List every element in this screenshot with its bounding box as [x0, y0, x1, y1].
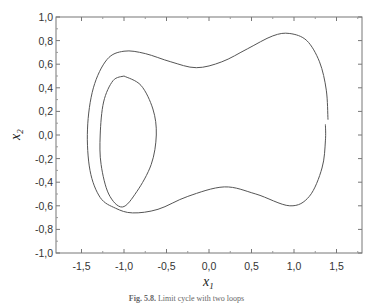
y-tick-label: 0,4 — [38, 82, 53, 94]
plot-frame — [56, 17, 362, 253]
x-tick-label: 1,5 — [329, 260, 344, 272]
y-tick-label: -0,8 — [35, 223, 53, 235]
y-axis-label: x2 — [8, 129, 25, 141]
x-tick-label: 0,5 — [244, 260, 259, 272]
x-tick-label: -1,0 — [115, 260, 133, 272]
y-tick-label: 1,0 — [38, 11, 53, 23]
x-tick-label: 1,0 — [287, 260, 302, 272]
y-tick-label: -0,2 — [35, 153, 53, 165]
caption-text: Limit cycle with two loops — [158, 294, 244, 303]
x-axis-ticks: -1,5-1,0-0,50,00,51,01,5 — [72, 17, 357, 272]
x-tick-label: -0,5 — [157, 260, 175, 272]
y-tick-label: 0,0 — [38, 129, 53, 141]
x-tick-label: -1,5 — [72, 260, 90, 272]
y-tick-label: 0,6 — [38, 58, 53, 70]
y-tick-label: -0,4 — [35, 176, 53, 188]
trajectory-curves — [87, 33, 328, 213]
x-axis-label: x1 — [202, 274, 214, 290]
y-tick-label: 0,2 — [38, 105, 53, 117]
outer-trajectory-line — [87, 33, 328, 213]
inner-loop-line — [100, 76, 156, 207]
phase-plot: 1,00,80,60,40,20,0-0,2-0,4-0,6-0,8-1,0 -… — [0, 0, 373, 290]
y-tick-label: 0,8 — [38, 35, 53, 47]
figure-caption: Fig. 5.8. Limit cycle with two loops — [0, 294, 373, 303]
x-tick-label: 0,0 — [202, 260, 217, 272]
y-tick-label: -0,6 — [35, 200, 53, 212]
y-tick-label: -1,0 — [35, 247, 53, 259]
caption-label: Fig. 5.8. — [129, 294, 156, 303]
